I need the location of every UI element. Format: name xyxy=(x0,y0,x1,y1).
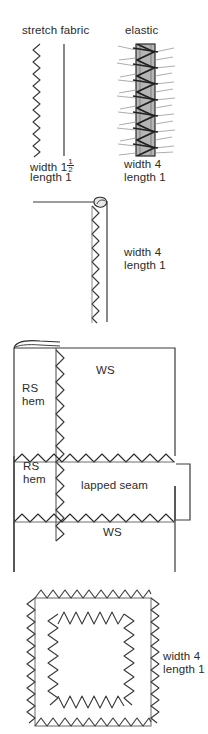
folded-edge-zigzag-stitch xyxy=(92,206,99,323)
applique-width-setting: width 4 xyxy=(163,650,200,664)
figure-lapped-seam-panel: RS hem WS lapped seam WS RS hem xyxy=(0,336,208,580)
elastic-width-setting: width 4 xyxy=(124,158,161,172)
outer-zigzag-right xyxy=(151,598,159,723)
lapped-seam-label: lapped seam xyxy=(81,479,148,493)
outer-zigzag-bottom xyxy=(35,718,151,726)
elastic-length-setting: length 1 xyxy=(124,171,166,185)
upper-wrong-side-label: WS xyxy=(96,364,115,378)
inner-zigzag-top xyxy=(58,612,124,624)
upper-right-side-label: RS xyxy=(22,382,38,396)
folded-edge-length-setting: length 1 xyxy=(124,259,166,273)
hem-zigzag-stitch xyxy=(56,350,64,541)
stretch-fabric-elastic-drawing xyxy=(0,0,208,182)
upper-hem-label: hem xyxy=(22,395,45,409)
inner-zigzag-right xyxy=(124,614,134,705)
applique-length-setting: length 1 xyxy=(163,663,205,677)
lower-seam-zigzag-stitch xyxy=(14,514,174,522)
outer-zigzag-top xyxy=(35,590,151,598)
applique-base-rectangle xyxy=(35,598,151,726)
inner-zigzag-left xyxy=(48,614,58,705)
rolled-fold-edge xyxy=(94,197,107,207)
inner-zigzag-bottom xyxy=(58,696,124,708)
folded-edge-width-setting: width 4 xyxy=(124,246,161,260)
figure-stretch-fabric-and-elastic: stretch fabric elastic xyxy=(0,0,208,182)
outer-zigzag-left xyxy=(27,598,35,723)
lower-wrong-side-label: WS xyxy=(103,526,122,540)
lower-right-side-label: RS xyxy=(23,460,39,474)
figure-zigzag-applique-rectangle: width 4 length 1 xyxy=(0,588,208,734)
stretch-fabric-zigzag-stitch xyxy=(33,44,40,157)
diagram-sheet: stretch fabric elastic xyxy=(0,0,208,734)
seam-allowance-bracket xyxy=(176,464,190,520)
stretch-fabric-length-setting: length 1 xyxy=(30,171,72,185)
figure-folded-edge-hem: width 4 length 1 xyxy=(0,188,208,324)
folded-edge-drawing xyxy=(0,188,208,324)
lower-hem-label: hem xyxy=(23,473,46,487)
